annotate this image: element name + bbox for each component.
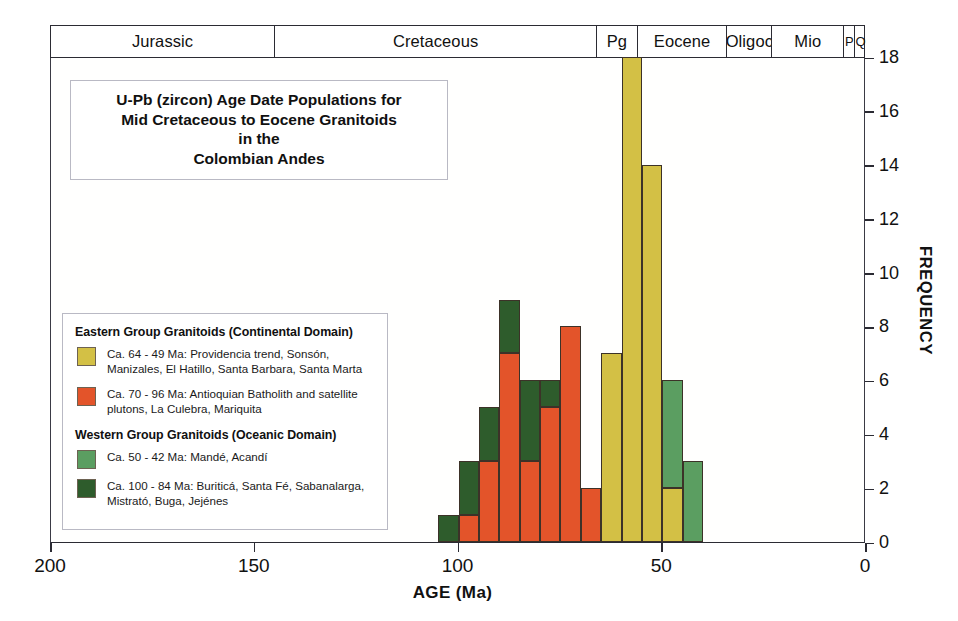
bar-segment-eastern-young-khaki: [642, 165, 662, 542]
histogram-bar: [438, 515, 458, 542]
timescale-cell-label: Oligoc: [727, 32, 772, 51]
histogram-bar: [499, 300, 519, 543]
legend-item[interactable]: Ca. 64 - 49 Ma: Providencia trend, Sonsó…: [75, 346, 377, 377]
timescale-cell-mio: Mio: [772, 26, 844, 57]
timescale-cell-label: P: [845, 34, 854, 49]
geologic-timescale-strip: JurassicCretaceousPgEoceneOligocMioPQ: [50, 25, 865, 58]
chart-title-box: U-Pb (zircon) Age Date Populations forMi…: [70, 80, 448, 180]
x-tick-label: 50: [651, 555, 672, 577]
histogram-bar: [581, 488, 601, 542]
chart-title-line: Colombian Andes: [81, 149, 437, 169]
legend-swatch-green: [77, 450, 96, 469]
legend-item[interactable]: Ca. 100 - 84 Ma: Buriticá, Santa Fé, Sab…: [75, 478, 377, 509]
timescale-cell-oligoc: Oligoc: [727, 26, 772, 57]
y-tick-mark: [865, 273, 874, 275]
bar-segment-western-old-darkgreen: [499, 300, 519, 354]
timescale-cell-cretaceous: Cretaceous: [275, 26, 597, 57]
bar-segment-eastern-young-khaki: [622, 57, 642, 542]
x-tick-mark: [661, 543, 663, 552]
bar-segment-western-old-darkgreen: [479, 407, 499, 461]
x-axis-label: AGE (Ma): [0, 583, 905, 603]
bar-segment-western-old-darkgreen: [540, 380, 560, 407]
histogram-bar: [520, 380, 540, 542]
y-tick-label: 6: [879, 370, 889, 391]
timescale-cell-q: Q: [855, 26, 866, 57]
chart-legend: Eastern Group Granitoids (Continental Do…: [62, 313, 388, 530]
histogram-bar: [540, 380, 560, 542]
y-tick-mark: [865, 219, 874, 221]
timescale-cell-label: Pg: [607, 32, 627, 51]
y-axis-label: FREQUENCY: [905, 58, 945, 543]
bar-segment-eastern-old-orange: [459, 515, 479, 542]
timescale-cell-label: Mio: [794, 32, 821, 51]
y-axis-label-text: FREQUENCY: [916, 246, 935, 355]
chart-title-line: Mid Cretaceous to Eocene Granitoids: [81, 110, 437, 130]
legend-item-label: Ca. 64 - 49 Ma: Providencia trend, Sonsó…: [107, 346, 377, 377]
y-tick-mark: [865, 327, 874, 329]
legend-item[interactable]: Ca. 50 - 42 Ma: Mandé, Acandí: [75, 449, 377, 469]
bar-segment-eastern-old-orange: [581, 488, 601, 542]
x-tick-mark: [254, 543, 256, 552]
y-tick-mark: [865, 165, 874, 167]
legend-item-label: Ca. 50 - 42 Ma: Mandé, Acandí: [107, 449, 267, 464]
y-tick-mark: [865, 381, 874, 383]
timescale-cell-jurassic: Jurassic: [51, 26, 275, 57]
timescale-cell-eocene: Eocene: [638, 26, 728, 57]
timescale-cell-label: Jurassic: [132, 32, 193, 51]
x-tick-mark: [50, 543, 52, 552]
legend-group-title: Western Group Granitoids (Oceanic Domain…: [75, 428, 377, 442]
y-tick-label: 16: [879, 101, 899, 122]
bar-segment-eastern-old-orange: [520, 461, 540, 542]
timescale-cell-pg: Pg: [597, 26, 638, 57]
timescale-cell-label: Cretaceous: [393, 32, 478, 51]
x-tick-label: 150: [238, 555, 270, 577]
histogram-bar: [459, 461, 479, 542]
y-tick-label: 12: [879, 209, 899, 230]
x-tick-label: 100: [442, 555, 474, 577]
x-tick-mark: [458, 543, 460, 552]
y-tick-mark: [865, 111, 874, 113]
bar-segment-eastern-old-orange: [560, 326, 580, 542]
bar-segment-eastern-young-khaki: [601, 353, 621, 542]
y-tick-mark: [865, 435, 874, 437]
x-tick-label: 0: [860, 555, 871, 577]
y-tick-label: 8: [879, 316, 889, 337]
y-tick-label: 14: [879, 155, 899, 176]
x-tick-mark: [865, 543, 867, 552]
y-tick-label: 18: [879, 47, 899, 68]
chart-title-line: U-Pb (zircon) Age Date Populations for: [81, 90, 437, 110]
legend-item[interactable]: Ca. 70 - 96 Ma: Antioquian Batholith and…: [75, 386, 377, 417]
timescale-cell-p: P: [844, 26, 855, 57]
y-tick-label: 4: [879, 424, 889, 445]
bar-segment-eastern-old-orange: [499, 353, 519, 542]
histogram-bar: [622, 57, 642, 542]
histogram-bar: [662, 380, 682, 542]
bar-segment-eastern-old-orange: [479, 461, 499, 542]
bar-segment-eastern-young-khaki: [662, 488, 682, 542]
histogram-bar: [560, 326, 580, 542]
legend-group-title: Eastern Group Granitoids (Continental Do…: [75, 325, 377, 339]
timescale-cell-label: Eocene: [654, 32, 711, 51]
legend-item-label: Ca. 70 - 96 Ma: Antioquian Batholith and…: [107, 386, 377, 417]
x-tick-label: 200: [34, 555, 66, 577]
timescale-cell-label: Q: [856, 34, 866, 49]
bar-segment-western-old-darkgreen: [438, 515, 458, 542]
bar-segment-eastern-old-orange: [540, 407, 560, 542]
bar-segment-western-old-darkgreen: [520, 380, 540, 461]
legend-swatch-khaki: [77, 347, 96, 366]
figure-histogram-age-populations: JurassicCretaceousPgEoceneOligocMioPQ 02…: [0, 0, 958, 621]
histogram-bar: [479, 407, 499, 542]
y-tick-mark: [865, 58, 874, 60]
histogram-bar: [683, 461, 703, 542]
histogram-bar: [642, 165, 662, 542]
legend-swatch-darkgreen: [77, 479, 96, 498]
legend-item-label: Ca. 100 - 84 Ma: Buriticá, Santa Fé, Sab…: [107, 478, 377, 509]
y-tick-label: 10: [879, 263, 899, 284]
bar-segment-western-young-green: [683, 461, 703, 542]
bar-segment-western-young-green: [662, 380, 682, 488]
y-tick-mark: [865, 489, 874, 491]
y-tick-label: 2: [879, 478, 889, 499]
histogram-bar: [601, 353, 621, 542]
chart-title-line: in the: [81, 129, 437, 149]
bar-segment-western-old-darkgreen: [459, 461, 479, 515]
